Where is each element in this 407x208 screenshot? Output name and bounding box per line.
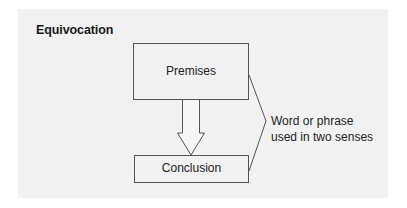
equivocation-diagram (0, 0, 407, 208)
note-line-2: used in two senses (271, 129, 373, 145)
inference-arrow (178, 100, 205, 156)
conclusion-label: Conclusion (134, 161, 249, 175)
note-line-1: Word or phrase (271, 113, 373, 129)
premises-label: Premises (133, 64, 249, 78)
equivocation-note: Word or phrase used in two senses (271, 113, 373, 145)
bracket-connector (249, 75, 266, 171)
